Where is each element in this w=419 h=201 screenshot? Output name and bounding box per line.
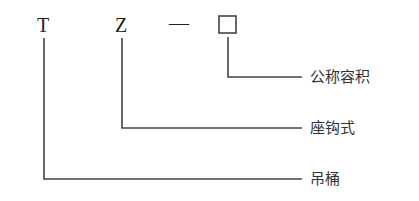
placeholder-box	[219, 16, 236, 33]
box-connector	[228, 37, 302, 77]
t-connector	[44, 38, 302, 179]
letter-t: T	[37, 14, 49, 36]
label-nominal-volume: 公称容积	[310, 68, 370, 86]
label-seat-hook: 座钩式	[310, 119, 355, 137]
connector-lines	[0, 0, 419, 201]
separator-dash: —	[169, 12, 189, 34]
z-connector	[122, 38, 302, 128]
label-bucket: 吊桶	[310, 170, 340, 188]
letter-z: Z	[115, 14, 127, 36]
